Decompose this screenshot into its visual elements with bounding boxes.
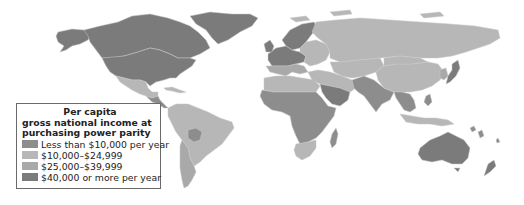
region-tasmania xyxy=(454,168,460,172)
region-caribbean xyxy=(164,87,186,93)
map-legend: Per capita gross national income at purc… xyxy=(16,103,161,189)
legend-item-low: Less than $10,000 per year xyxy=(22,139,156,150)
region-japan xyxy=(446,60,460,84)
region-korea xyxy=(440,68,448,80)
region-pacific-islands xyxy=(470,126,500,143)
legend-label: Less than $10,000 per year xyxy=(41,139,169,150)
region-philippines xyxy=(424,94,432,106)
region-madagascar xyxy=(330,128,338,148)
legend-swatch xyxy=(22,140,38,148)
region-indonesia xyxy=(400,114,454,126)
region-sub-saharan-africa xyxy=(260,90,336,144)
region-southern-europe xyxy=(266,64,308,76)
legend-swatch xyxy=(22,162,38,170)
legend-item-lower-middle: $10,000–$24,999 xyxy=(22,150,156,161)
region-new-zealand xyxy=(484,160,496,176)
legend-item-upper-middle: $25,000–$39,999 xyxy=(22,161,156,172)
region-southeast-asia xyxy=(394,92,416,112)
legend-label: $25,000–$39,999 xyxy=(41,161,123,172)
region-uk xyxy=(264,40,274,52)
region-china xyxy=(376,62,444,92)
legend-item-high: $40,000 or more per year xyxy=(22,172,156,183)
legend-title-line: Per capita xyxy=(22,107,156,118)
legend-label: $10,000–$24,999 xyxy=(41,150,123,161)
legend-label: $40,000 or more per year xyxy=(41,172,161,183)
region-australia xyxy=(418,132,470,164)
legend-swatch xyxy=(22,151,38,159)
region-russia xyxy=(312,18,500,62)
legend-title: Per capita gross national income at purc… xyxy=(22,107,156,139)
legend-title-line: purchasing power parity xyxy=(22,128,156,139)
legend-swatch xyxy=(22,173,38,181)
region-southern-africa xyxy=(294,140,316,160)
